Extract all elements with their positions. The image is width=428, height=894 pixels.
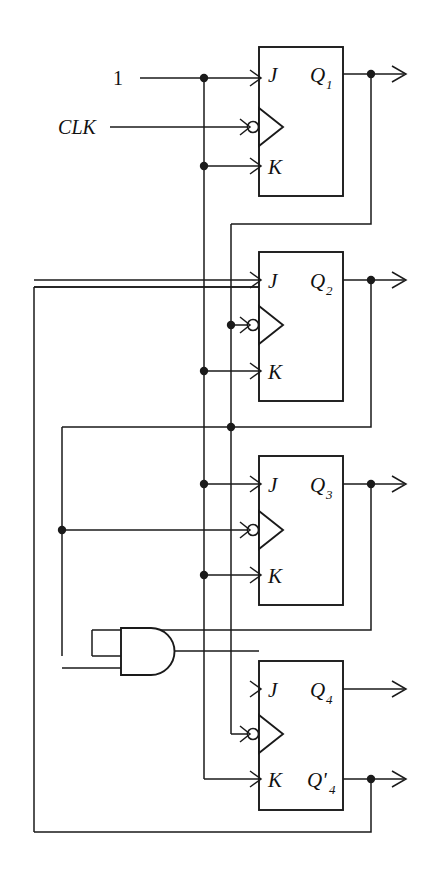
ff2-j-label: J	[268, 269, 279, 293]
wire-q2-feedback	[62, 280, 371, 427]
junction-logic-one-top	[200, 74, 208, 82]
junction-ff1-k	[200, 162, 208, 170]
ff3-k-label: K	[267, 564, 283, 588]
ff2-q-label: Q	[310, 269, 325, 293]
ff1-q-label: Q	[310, 63, 325, 87]
junction-ff3-clk	[58, 526, 66, 534]
ff4-qn-subscript: 4	[329, 782, 336, 797]
junction-q1	[367, 70, 375, 78]
schematic-canvas: 1 CLK J K Q 1 J K Q 2	[0, 0, 428, 894]
ff1-j-label: J	[268, 63, 279, 87]
ff2-q-subscript: 2	[326, 283, 333, 298]
ff2-clock-triangle	[259, 306, 283, 344]
circuit-diagram-svg: 1 CLK J K Q 1 J K Q 2	[0, 0, 428, 894]
ff3-clock-triangle	[259, 511, 283, 549]
ff3-j-label: J	[268, 473, 279, 497]
ff1-k-label: K	[267, 155, 283, 179]
junction-ff2-clk	[227, 321, 235, 329]
ff4-q-subscript: 4	[326, 692, 333, 707]
ff1-q-subscript: 1	[326, 77, 333, 92]
ff4-k-label: K	[267, 768, 283, 792]
ff1-clock-triangle	[259, 108, 283, 146]
ff4-qn-label: Q'	[307, 768, 327, 792]
input-label-logic-one: 1	[113, 67, 123, 89]
ff4-q-label: Q	[310, 678, 325, 702]
ff3-q-label: Q	[310, 473, 325, 497]
junction-ff3-k	[200, 571, 208, 579]
ff4-j-label: J	[268, 678, 279, 702]
wire-q1-feedback	[231, 74, 371, 224]
junction-ff3-j	[200, 480, 208, 488]
and-gate	[121, 628, 175, 675]
ff3-q-subscript: 3	[325, 487, 333, 502]
junction-ff2-k	[200, 367, 208, 375]
ff2-k-label: K	[267, 360, 283, 384]
input-label-clk: CLK	[58, 116, 97, 138]
ff4-clock-triangle	[259, 715, 283, 753]
junction-q2-feedback-cross	[227, 423, 235, 431]
